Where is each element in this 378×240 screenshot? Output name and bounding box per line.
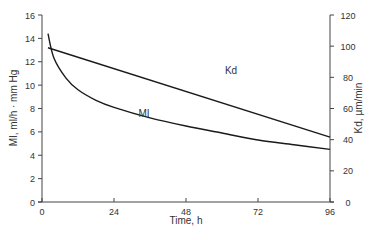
left-y-tick-label: 6: [30, 127, 35, 137]
x-tick-label: 0: [39, 207, 44, 217]
series-lines: MIKd: [48, 34, 330, 150]
right-y-tick-label: 0: [345, 198, 350, 208]
series-label-mi: MI: [138, 108, 149, 119]
x-axis-label: Time, h: [170, 215, 203, 226]
right-y-tick-label: 80: [343, 73, 353, 83]
axis-labels: Time, h MI, ml/h · mm Hg Kd, µm/min: [8, 70, 364, 226]
right-y-axis-label: Kd, µm/min: [353, 83, 364, 134]
series-line-mi: [48, 34, 330, 150]
series-line-kd: [48, 48, 330, 137]
left-y-tick-label: 10: [25, 81, 35, 91]
x-tick-label: 24: [109, 207, 119, 217]
right-y-tick-label: 60: [343, 104, 353, 114]
x-tick-label: 72: [253, 207, 263, 217]
left-y-tick-label: 0: [30, 198, 35, 208]
right-y-tick-label: 120: [340, 11, 355, 21]
right-y-tick-label: 20: [343, 166, 353, 176]
left-y-tick-label: 4: [30, 151, 35, 161]
right-y-tick-label: 100: [340, 42, 355, 52]
series-label-kd: Kd: [225, 65, 237, 76]
left-y-axis-label: MI, ml/h · mm Hg: [8, 70, 19, 147]
left-y-tick-label: 8: [30, 104, 35, 114]
left-y-tick-label: 14: [25, 34, 35, 44]
left-y-tick-label: 12: [25, 57, 35, 67]
x-tick-label: 96: [325, 207, 335, 217]
left-y-tick-label: 2: [30, 174, 35, 184]
left-y-tick-label: 16: [25, 11, 35, 21]
dual-axis-line-chart: 0246810121416020406080100120024487296 MI…: [0, 0, 378, 240]
axes: 0246810121416020406080100120024487296: [25, 11, 356, 218]
right-y-tick-label: 40: [343, 135, 353, 145]
